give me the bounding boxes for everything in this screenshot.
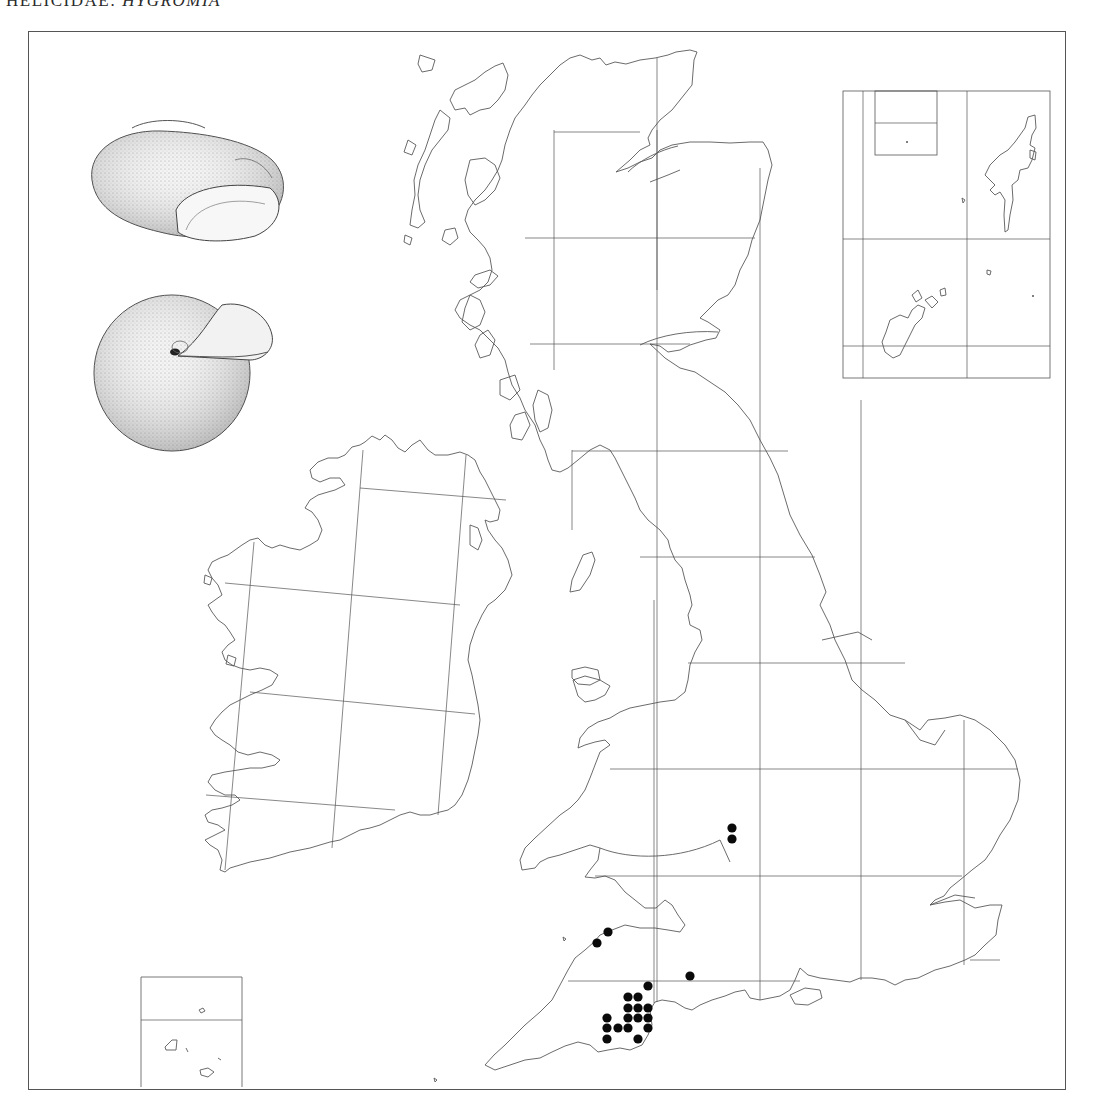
record-dot [613,1023,622,1032]
record-dot [602,1013,611,1022]
ireland-coastline [204,435,512,872]
record-dot [623,1013,632,1022]
small-islands [434,552,822,1082]
distribution-map [0,0,1093,1111]
record-dot [727,834,736,843]
record-dot [685,971,694,980]
shetland-orkney-inset [843,91,1050,378]
gb-grid [525,58,1018,1003]
record-dots [592,823,736,1043]
record-dot [643,1003,652,1012]
record-dot [633,1003,642,1012]
record-dot [643,1013,652,1022]
record-dot [623,992,632,1001]
shell-side-view [92,121,284,241]
record-dot [727,823,736,832]
channel-islands-inset [141,977,242,1087]
record-dot [633,1013,642,1022]
ireland-grid [206,450,506,870]
record-dot [603,927,612,936]
record-dot [643,1023,652,1032]
great-britain-coastline [455,50,1020,1070]
wales-coastline [573,676,610,702]
record-dot [592,938,601,947]
record-dot [633,992,642,1001]
record-dot [623,1003,632,1012]
record-dot [643,981,652,990]
record-dot [623,1023,632,1032]
record-dot [602,1023,611,1032]
record-dot [633,1034,642,1043]
hebrides-islands [404,55,552,440]
shell-umbilical-view [94,295,272,451]
record-dot [602,1034,611,1043]
